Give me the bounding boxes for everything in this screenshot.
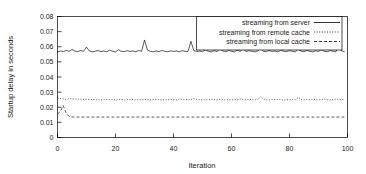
startup-delay-line-chart: Startup delay in seconds 00.010.020.030.…: [0, 0, 366, 174]
y-tick-label: 0.05: [40, 58, 54, 65]
y-tick-label: 0.01: [40, 119, 54, 126]
chart-legend: streaming from serverstreaming from remo…: [197, 17, 343, 51]
y-tick-label: 0.06: [40, 43, 54, 50]
x-tick-label: 100: [342, 145, 354, 152]
chart-container: Startup delay in seconds 00.010.020.030.…: [0, 0, 366, 174]
x-axis-title-text: Iteration: [188, 161, 215, 170]
x-tick-label: 20: [112, 145, 120, 152]
x-tick-label: 60: [228, 145, 236, 152]
x-axis-title: Iteration: [188, 161, 215, 170]
y-axis-title-text: Startup delay in seconds: [6, 36, 15, 118]
y-tick-label: 0.08: [40, 13, 54, 20]
series-line-1: [58, 97, 345, 100]
y-tick-label: 0: [50, 134, 54, 141]
y-tick-label: 0.03: [40, 89, 54, 96]
legend-label-1: streaming from remote cache: [219, 29, 310, 37]
x-tick-label: 40: [170, 145, 178, 152]
legend-label-2: streaming from local cache: [226, 38, 310, 46]
data-series-group: [58, 40, 345, 117]
x-tick-label: 0: [56, 145, 60, 152]
y-tick-label: 0.04: [40, 74, 54, 81]
y-axis-ticks: 00.010.020.030.040.050.060.070.08: [40, 13, 62, 141]
x-axis-ticks: 020406080100: [56, 134, 354, 152]
legend-label-0: streaming from server: [242, 19, 311, 27]
x-tick-label: 80: [286, 145, 294, 152]
series-line-2: [58, 106, 345, 117]
y-tick-label: 0.07: [40, 28, 54, 35]
y-axis-title: Startup delay in seconds: [6, 36, 15, 118]
y-tick-label: 0.02: [40, 104, 54, 111]
